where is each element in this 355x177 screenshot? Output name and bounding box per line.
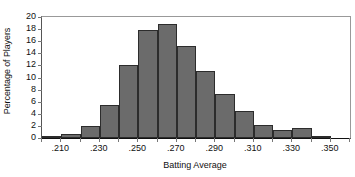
y-axis-tick-label: 6 xyxy=(31,96,36,105)
histogram-bar xyxy=(177,46,196,138)
x-axis-tick-mark xyxy=(272,138,273,142)
x-axis-title-text: Batting Average xyxy=(163,160,226,170)
x-axis-tick-label: .250 xyxy=(128,143,146,154)
y-axis-tick-label: 4 xyxy=(31,108,36,117)
y-axis-tick-mark xyxy=(38,90,42,91)
x-axis-tick-label: .210 xyxy=(51,143,69,154)
y-axis-tick-label: 2 xyxy=(31,120,36,129)
plot-area xyxy=(41,16,351,139)
x-axis-tick-mark xyxy=(99,138,100,142)
y-axis-tick-mark xyxy=(38,17,42,18)
y-axis-tick-label: 10 xyxy=(26,72,36,81)
y-axis-tick-label: 0 xyxy=(31,133,36,142)
x-axis-tick-label: .350 xyxy=(321,143,339,154)
histogram-bar xyxy=(100,105,119,138)
x-axis-tick-mark xyxy=(60,138,61,142)
y-axis-tick-label: 20 xyxy=(26,12,36,21)
y-axis-tick-label: 12 xyxy=(26,60,36,69)
x-axis-tick-label: .310 xyxy=(244,143,262,154)
y-axis-tick-label: 8 xyxy=(31,84,36,93)
y-axis-tick-label: 14 xyxy=(26,48,36,57)
histogram-bar xyxy=(196,71,215,138)
x-axis-tick-mark xyxy=(330,138,331,142)
histogram-bar xyxy=(254,125,273,138)
histogram-bar xyxy=(292,128,311,138)
histogram-bar xyxy=(138,30,157,138)
y-axis-tick-label: 18 xyxy=(26,24,36,33)
x-axis-tick-mark xyxy=(311,138,312,142)
x-axis-tick-mark xyxy=(291,138,292,142)
y-axis-tick-labels: 02468101214161820 xyxy=(14,11,38,139)
y-axis-tick-mark xyxy=(38,41,42,42)
y-axis-tick-mark xyxy=(38,53,42,54)
x-axis-tick-mark xyxy=(234,138,235,142)
x-axis-tick-mark xyxy=(349,138,350,142)
y-axis-title: Percentage of Players xyxy=(0,0,14,142)
x-axis-tick-mark xyxy=(41,138,42,142)
x-axis-tick-mark xyxy=(118,138,119,142)
histogram-bar xyxy=(119,65,138,138)
x-axis-tick-mark xyxy=(176,138,177,142)
y-axis-tick-mark xyxy=(38,126,42,127)
histogram-bar xyxy=(81,126,100,138)
x-axis-title: Batting Average xyxy=(41,160,349,170)
x-axis-tick-mark xyxy=(80,138,81,142)
y-axis-tick-mark xyxy=(38,65,42,66)
histogram-bar xyxy=(215,94,234,138)
y-axis-tick-mark xyxy=(38,102,42,103)
y-axis-tick-mark xyxy=(38,114,42,115)
x-axis-tick-mark xyxy=(157,138,158,142)
y-axis-tick-label: 16 xyxy=(26,36,36,45)
x-axis-tick-labels: .210.230.250.270.290.310.330.350 xyxy=(41,143,351,156)
histogram-bar xyxy=(158,24,177,138)
histogram-bar xyxy=(273,130,292,138)
y-axis-tick-mark xyxy=(38,78,42,79)
x-axis-tick-mark xyxy=(195,138,196,142)
histogram-bars xyxy=(42,17,350,138)
x-axis-tick-label: .270 xyxy=(167,143,185,154)
x-axis-tick-mark xyxy=(253,138,254,142)
y-axis-title-text: Percentage of Players xyxy=(2,28,12,114)
histogram-bar xyxy=(235,111,254,138)
x-axis-tick-label: .230 xyxy=(90,143,108,154)
y-axis-tick-mark xyxy=(38,29,42,30)
x-axis-tick-mark xyxy=(214,138,215,142)
x-axis-tick-label: .290 xyxy=(205,143,223,154)
x-axis-tick-mark xyxy=(137,138,138,142)
histogram-figure: Percentage of Players 02468101214161820 … xyxy=(0,0,355,177)
x-axis-tick-label: .330 xyxy=(282,143,300,154)
